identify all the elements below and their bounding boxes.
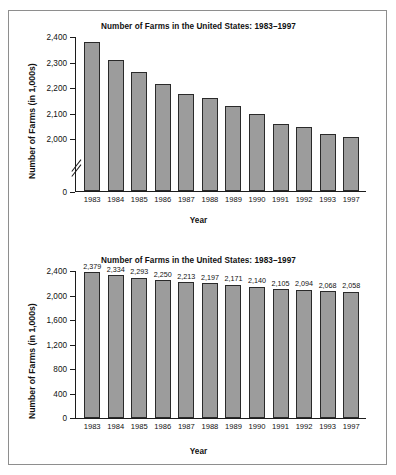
bar-item — [104, 37, 128, 191]
bar-item — [175, 37, 199, 191]
bar-value-label: 2,293 — [130, 267, 148, 276]
x-tick-label: 1987 — [175, 422, 199, 431]
bar-value-label: 2,334 — [107, 265, 125, 274]
bar-item — [316, 37, 340, 191]
x-tick-label: 1983 — [80, 195, 104, 204]
plot-area-bottom: 2,400 2,000 1,600 1,200 800 — [75, 271, 366, 419]
y-tick-mark — [70, 369, 75, 370]
bar-series-bottom: 2,379 2,334 2,293 2,250 — [76, 271, 366, 418]
y-tick-mark — [70, 88, 75, 89]
bar-value-label: 2,058 — [342, 281, 360, 290]
chart-panel-bottom: Number of Farms in the United States: 19… — [9, 239, 388, 466]
y-tick-label: 2,000 — [47, 135, 68, 144]
x-tick-label: 1985 — [127, 422, 151, 431]
bar-item: 2,379 — [80, 271, 104, 418]
x-tick-label: 1990 — [245, 422, 269, 431]
y-tick-mark — [70, 63, 75, 64]
x-tick-label: 1992 — [292, 422, 316, 431]
x-tick-label: 1997 — [339, 195, 363, 204]
bar-item — [339, 37, 363, 191]
x-tick-label: 1983 — [80, 422, 104, 431]
y-tick-label: 2,100 — [47, 109, 68, 118]
y-tick-mark — [70, 320, 75, 321]
figure-frame: Number of Farms in the United States: 19… — [8, 10, 387, 465]
y-tick-label: 400 — [53, 389, 67, 398]
bar-item: 2,171 — [222, 271, 246, 418]
plot-area-top: 2,400 2,300 2,200 2,100 2,000 — [75, 37, 366, 192]
bar-series-top — [76, 37, 366, 191]
figure-page: Number of Farms in the United States: 19… — [0, 0, 396, 475]
bar-value-label: 2,105 — [272, 279, 290, 288]
chart-title-top: Number of Farms in the United States: 19… — [9, 22, 388, 31]
bar-value-label: 2,250 — [154, 270, 172, 279]
y-tick-label: 800 — [53, 365, 67, 374]
y-tick-mark — [70, 418, 75, 419]
y-tick-label: 2,300 — [47, 58, 68, 67]
y-axis-label-bottom: Number of Farms (in 1,000s) — [27, 303, 37, 419]
bar-item: 2,213 — [175, 271, 199, 418]
bar-item: 2,094 — [292, 271, 316, 418]
x-tick-label: 1986 — [151, 195, 175, 204]
x-axis-line-bottom — [75, 418, 366, 419]
bar-item — [80, 37, 104, 191]
y-tick-mark — [70, 296, 75, 297]
x-tick-label: 1989 — [222, 195, 246, 204]
x-tick-label: 1993 — [316, 422, 340, 431]
x-axis-label-bottom: Year — [9, 447, 388, 456]
x-tick-label: 1989 — [222, 422, 246, 431]
x-tick-label: 1986 — [151, 422, 175, 431]
bar-item — [222, 37, 246, 191]
chart-panel-top: Number of Farms in the United States: 19… — [9, 11, 388, 239]
y-tick-label: 2,000 — [47, 291, 68, 300]
y-tick-label: 0 — [62, 188, 67, 197]
y-tick-mark — [70, 114, 75, 115]
x-tick-label: 1993 — [316, 195, 340, 204]
bar-item: 2,293 — [127, 271, 151, 418]
y-tick-label: 2,200 — [47, 84, 68, 93]
bar-value-label: 2,197 — [201, 273, 219, 282]
bar-value-label: 2,213 — [177, 272, 195, 281]
y-tick-mark — [70, 37, 75, 38]
bar-item: 2,058 — [339, 271, 363, 418]
x-tick-label: 1988 — [198, 195, 222, 204]
y-axis-label-top: Number of Farms (in 1,000s) — [27, 63, 37, 179]
y-tick-mark — [70, 271, 75, 272]
y-tick-label: 2,400 — [47, 267, 68, 276]
bar-value-label: 2,379 — [83, 262, 101, 271]
bar-item — [269, 37, 293, 191]
bar-item: 2,250 — [151, 271, 175, 418]
y-tick-mark — [70, 345, 75, 346]
y-tick-label: 1,200 — [47, 340, 68, 349]
x-tick-labels-bottom: 1983 1984 1985 1986 1987 1988 1989 1990 … — [76, 422, 366, 431]
bar-item: 2,140 — [245, 271, 269, 418]
y-tick-mark — [70, 139, 75, 140]
bar-item: 2,068 — [316, 271, 340, 418]
chart-title-bottom: Number of Farms in the United States: 19… — [9, 256, 388, 265]
x-tick-label: 1991 — [269, 422, 293, 431]
y-tick-label: 2,400 — [47, 33, 68, 42]
x-tick-label: 1992 — [292, 195, 316, 204]
y-tick-label: 1,600 — [47, 316, 68, 325]
bar-item — [292, 37, 316, 191]
bar-item — [245, 37, 269, 191]
x-tick-label: 1985 — [127, 195, 151, 204]
x-tick-labels-top: 1983 1984 1985 1986 1987 1988 1989 1990 … — [76, 195, 366, 204]
y-tick-label: 0 — [62, 414, 67, 423]
bar-value-label: 2,171 — [224, 274, 242, 283]
x-tick-label: 1987 — [175, 195, 199, 204]
x-axis-line-top — [75, 191, 366, 192]
bar-value-label: 2,140 — [248, 276, 266, 285]
x-tick-label: 1984 — [104, 422, 128, 431]
bar-item — [151, 37, 175, 191]
x-tick-label: 1997 — [339, 422, 363, 431]
y-tick-mark — [70, 394, 75, 395]
x-tick-label: 1988 — [198, 422, 222, 431]
y-tick-mark — [70, 192, 75, 193]
bar-item — [127, 37, 151, 191]
bar-item: 2,334 — [104, 271, 128, 418]
x-tick-label: 1990 — [245, 195, 269, 204]
x-tick-label: 1984 — [104, 195, 128, 204]
bar-item — [198, 37, 222, 191]
bar-value-label: 2,068 — [319, 281, 337, 290]
bar-value-label: 2,094 — [295, 279, 313, 288]
